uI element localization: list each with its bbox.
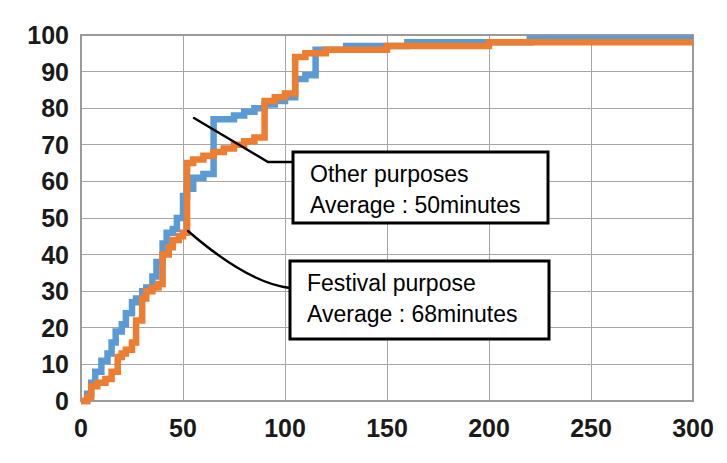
y-tick-label: 80 (41, 94, 69, 122)
x-tick-label: 250 (570, 414, 612, 442)
y-tick-label: 90 (41, 58, 69, 86)
y-tick-label: 60 (41, 167, 69, 195)
x-tick-label: 100 (264, 414, 306, 442)
y-tick-label: 0 (55, 387, 69, 415)
y-tick-label: 40 (41, 241, 69, 269)
cumulative-distribution-chart: 0102030405060708090100 05010015020025030… (0, 0, 727, 463)
x-tick-label: 50 (169, 414, 197, 442)
callout-average-festival-purpose-callout: Average : 68minutes (307, 301, 518, 327)
x-tick-label: 300 (672, 414, 714, 442)
y-tick-label: 70 (41, 131, 69, 159)
chart-background (0, 0, 727, 463)
callout-average-other-purposes-callout: Average : 50minutes (310, 192, 521, 218)
x-tick-label: 150 (366, 414, 408, 442)
x-tick-label: 0 (74, 414, 88, 442)
y-tick-label: 20 (41, 314, 69, 342)
callout-title-festival-purpose-callout: Festival purpose (307, 270, 476, 296)
y-tick-label: 100 (27, 21, 69, 49)
chart-container: 0102030405060708090100 05010015020025030… (0, 0, 727, 463)
x-tick-label: 200 (468, 414, 510, 442)
callout-title-other-purposes-callout: Other purposes (310, 161, 469, 187)
y-tick-label: 30 (41, 277, 69, 305)
y-tick-label: 50 (41, 204, 69, 232)
y-tick-label: 10 (41, 350, 69, 378)
